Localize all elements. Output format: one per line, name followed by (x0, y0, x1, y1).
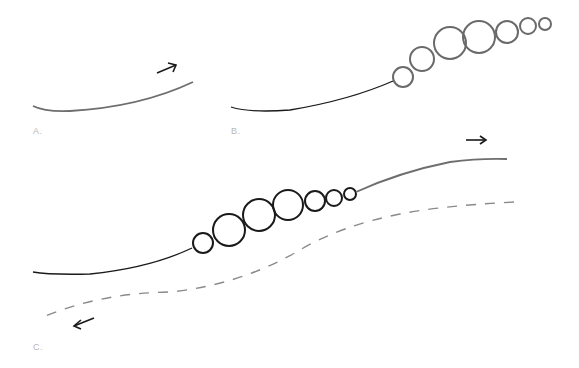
panel-c-right-curve (356, 159, 507, 192)
arrow-left-icon (74, 318, 94, 329)
panel-a-label: A. (33, 126, 43, 136)
panel-c-left-curve (33, 248, 192, 274)
panel-b-label: B. (231, 126, 241, 136)
panel-b (231, 18, 551, 111)
panel-c-dashed-return (43, 202, 514, 317)
bubble-chain-c (193, 188, 356, 253)
panel-c (33, 136, 514, 329)
arrow-right-icon (466, 136, 486, 144)
panel-c-label: C. (33, 342, 43, 352)
panel-b-curve (231, 81, 393, 111)
panel-a (33, 63, 193, 111)
panel-a-curve (33, 82, 193, 111)
bubble-chain-b (393, 18, 551, 87)
arrow-up-right-icon (157, 63, 176, 73)
diagram-canvas (0, 0, 579, 368)
